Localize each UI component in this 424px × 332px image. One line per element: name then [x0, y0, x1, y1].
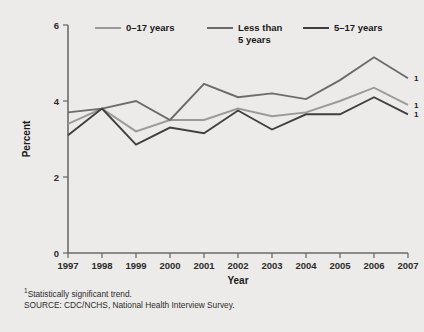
footnote-block: 1Statistically significant trend. SOURCE… — [24, 289, 404, 311]
footnote-1: SOURCE: CDC/NCHS, National Health Interv… — [24, 300, 404, 311]
x-tick-label-1997: 1997 — [57, 260, 78, 271]
chart-figure: 0246199719981999200020012002200320042005… — [0, 0, 424, 332]
legend-swatch-0 — [95, 27, 121, 29]
endnote-marker-1: 1 — [414, 74, 419, 83]
x-tick-label-2001: 2001 — [193, 260, 215, 271]
x-tick-label-2006: 2006 — [363, 260, 384, 271]
x-tick-label-1999: 1999 — [125, 260, 146, 271]
y-tick-label-2: 2 — [54, 172, 59, 183]
axis-group: 0246199719981999200020012002200320042005… — [54, 20, 419, 271]
legend-label-0: 0–17 years — [126, 22, 175, 34]
x-tick-label-2005: 2005 — [329, 260, 351, 271]
x-axis-title: Year — [227, 275, 248, 286]
x-tick-label-2003: 2003 — [261, 260, 282, 271]
legend-label-2: 5–17 years — [334, 22, 383, 34]
endnote-marker-group: 111 — [414, 74, 419, 119]
x-tick-label-2004: 2004 — [295, 260, 317, 271]
footnote-text-1: SOURCE: CDC/NCHS, National Health Interv… — [24, 300, 235, 310]
y-tick-label-6: 6 — [54, 20, 59, 31]
legend-item-1: Less than 5 years — [207, 22, 303, 45]
x-tick-label-1998: 1998 — [91, 260, 112, 271]
chart-legend: 0–17 years Less than 5 years 5–17 years — [95, 22, 395, 56]
x-tick-label-2007: 2007 — [397, 260, 418, 271]
x-tick-label-2002: 2002 — [227, 260, 248, 271]
axis-spine — [68, 25, 408, 253]
footnote-text-0: Statistically significant trend. — [28, 289, 132, 299]
y-tick-label-4: 4 — [54, 96, 60, 107]
x-tick-label-2000: 2000 — [159, 260, 180, 271]
series-group — [68, 57, 408, 144]
footnote-0: 1Statistically significant trend. — [24, 289, 404, 300]
legend-item-2: 5–17 years — [303, 22, 395, 34]
legend-swatch-1 — [207, 27, 233, 29]
legend-item-0: 0–17 years — [95, 22, 207, 34]
legend-label-1: Less than 5 years — [238, 22, 282, 45]
y-tick-label-0: 0 — [54, 248, 59, 259]
legend-swatch-2 — [303, 27, 329, 29]
endnote-marker-2: 1 — [414, 110, 419, 119]
endnote-marker-0: 1 — [414, 101, 419, 110]
y-axis-title: Percent — [21, 120, 32, 157]
